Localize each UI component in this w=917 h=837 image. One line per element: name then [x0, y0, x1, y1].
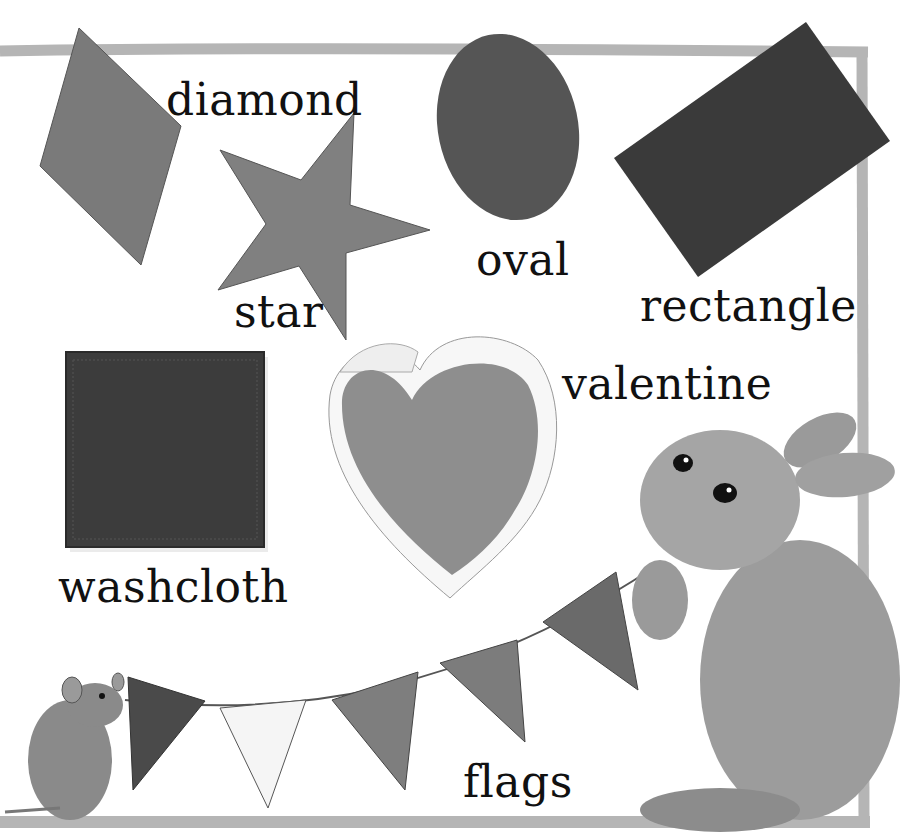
flag-5: [543, 572, 638, 690]
washcloth-shape: [66, 352, 268, 552]
label-valentine: valentine: [562, 362, 772, 406]
label-washcloth: washcloth: [58, 565, 289, 609]
label-flags: flags: [463, 760, 573, 804]
flag-2: [220, 700, 306, 808]
diamond-shape: [40, 28, 181, 265]
label-oval: oval: [476, 238, 570, 282]
label-star: star: [234, 290, 324, 334]
rectangle-shape: [614, 22, 890, 277]
flag-4: [440, 640, 525, 742]
mouse-illustration: [5, 673, 124, 820]
valentine-shape: [329, 337, 557, 598]
illustration-canvas: [0, 0, 917, 837]
label-rectangle: rectangle: [640, 284, 857, 328]
label-diamond: diamond: [166, 78, 363, 122]
flag-3: [332, 672, 418, 790]
shapes-page: diamond star oval rectangle washcloth va…: [0, 0, 917, 837]
bunny-illustration: [632, 401, 900, 832]
flag-1: [128, 677, 205, 790]
